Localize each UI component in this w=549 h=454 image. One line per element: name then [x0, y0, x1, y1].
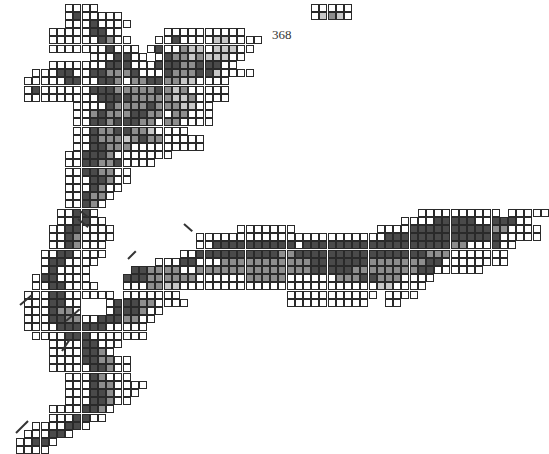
- grid-cell: [32, 274, 40, 282]
- grid-cell: [41, 282, 49, 290]
- grid-cell: [344, 274, 352, 282]
- grid-cell: [196, 36, 204, 44]
- grid-cell: [41, 422, 49, 430]
- grid-cell: [492, 209, 500, 217]
- grid-cell: [287, 233, 295, 241]
- grid-cell: [90, 118, 98, 126]
- grid-cell: [410, 233, 418, 241]
- grid-cell: [82, 291, 90, 299]
- grid-cell: [164, 69, 172, 77]
- grid-cell: [114, 36, 122, 44]
- grid-cell: [90, 94, 98, 102]
- grid-cell: [467, 233, 475, 241]
- grid-cell: [229, 61, 237, 69]
- grid-cell: [344, 233, 352, 241]
- grid-cell: [57, 86, 65, 94]
- grid-cell: [262, 282, 270, 290]
- grid-cell: [475, 209, 483, 217]
- grid-cell: [213, 61, 221, 69]
- grid-cell: [278, 233, 286, 241]
- grid-cell: [41, 86, 49, 94]
- grid-cell: [319, 291, 327, 299]
- grid-cell: [90, 20, 98, 28]
- grid-cell: [73, 102, 81, 110]
- grid-cell: [451, 225, 459, 233]
- grid-cell: [106, 94, 114, 102]
- grid-cell: [155, 307, 163, 315]
- grid-cell: [418, 282, 426, 290]
- grid-cell: [98, 291, 106, 299]
- grid-cell: [237, 233, 245, 241]
- grid-cell: [229, 258, 237, 266]
- grid-cell: [90, 45, 98, 53]
- grid-cell: [82, 127, 90, 135]
- grid-cell: [57, 315, 65, 323]
- grid-cell: [139, 282, 147, 290]
- grid-cell: [311, 4, 319, 12]
- grid-cell: [98, 151, 106, 159]
- grid-cell: [65, 4, 73, 12]
- grid-cell: [311, 12, 319, 20]
- grid-cell: [90, 12, 98, 20]
- grid-cell: [229, 266, 237, 274]
- grid-cell: [114, 143, 122, 151]
- grid-cell: [434, 233, 442, 241]
- grid-cell: [229, 274, 237, 282]
- grid-cell: [82, 28, 90, 36]
- grid-cell: [139, 77, 147, 85]
- grid-cell: [123, 94, 131, 102]
- grid-cell: [410, 274, 418, 282]
- grid-cell: [57, 332, 65, 340]
- grid-cell: [369, 274, 377, 282]
- grid-cell: [155, 53, 163, 61]
- grid-cell: [73, 110, 81, 118]
- grid-cell: [311, 299, 319, 307]
- grid-cell: [188, 143, 196, 151]
- grid-cell: [352, 266, 360, 274]
- grid-cell: [500, 217, 508, 225]
- grid-cell: [16, 446, 24, 454]
- grid-cell: [65, 364, 73, 372]
- grid-cell: [377, 233, 385, 241]
- grid-cell: [82, 250, 90, 258]
- grid-cell: [90, 127, 98, 135]
- grid-cell: [98, 45, 106, 53]
- grid-cell: [287, 258, 295, 266]
- grid-cell: [131, 143, 139, 151]
- grid-cell: [114, 381, 122, 389]
- grid-cell: [180, 274, 188, 282]
- grid-cell: [114, 184, 122, 192]
- grid-cell: [49, 332, 57, 340]
- grid-cell: [377, 274, 385, 282]
- grid-cell: [123, 274, 131, 282]
- grid-cell: [90, 250, 98, 258]
- grid-cell: [164, 127, 172, 135]
- grid-cell: [65, 69, 73, 77]
- grid-cell: [57, 356, 65, 364]
- grid-cell: [147, 151, 155, 159]
- grid-cell: [131, 282, 139, 290]
- grid-cell: [65, 422, 73, 430]
- grid-cell: [426, 258, 434, 266]
- grid-cell: [205, 102, 213, 110]
- grid-cell: [508, 209, 516, 217]
- grid-cell: [451, 250, 459, 258]
- grid-cell: [98, 405, 106, 413]
- grid-cell: [475, 233, 483, 241]
- grid-cell: [442, 266, 450, 274]
- grid-cell: [180, 258, 188, 266]
- grid-cell: [500, 233, 508, 241]
- grid-cell: [246, 258, 254, 266]
- grid-cell: [508, 233, 516, 241]
- grid-cell: [377, 266, 385, 274]
- grid-cell: [237, 53, 245, 61]
- grid-cell: [139, 332, 147, 340]
- grid-cell: [73, 135, 81, 143]
- grid-cell: [434, 266, 442, 274]
- grid-cell: [98, 20, 106, 28]
- grid-cell: [73, 200, 81, 208]
- grid-cell: [172, 291, 180, 299]
- grid-cell: [24, 438, 32, 446]
- grid-cell: [24, 446, 32, 454]
- grid-cell: [229, 250, 237, 258]
